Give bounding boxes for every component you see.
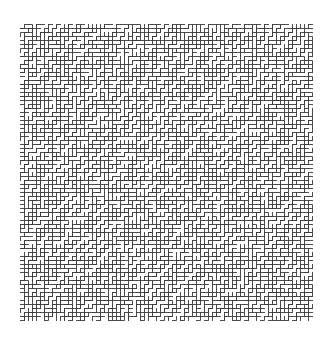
maze-pattern bbox=[20, 24, 313, 322]
maze-pattern-graphic bbox=[20, 24, 313, 322]
maze-lines bbox=[21, 25, 313, 321]
